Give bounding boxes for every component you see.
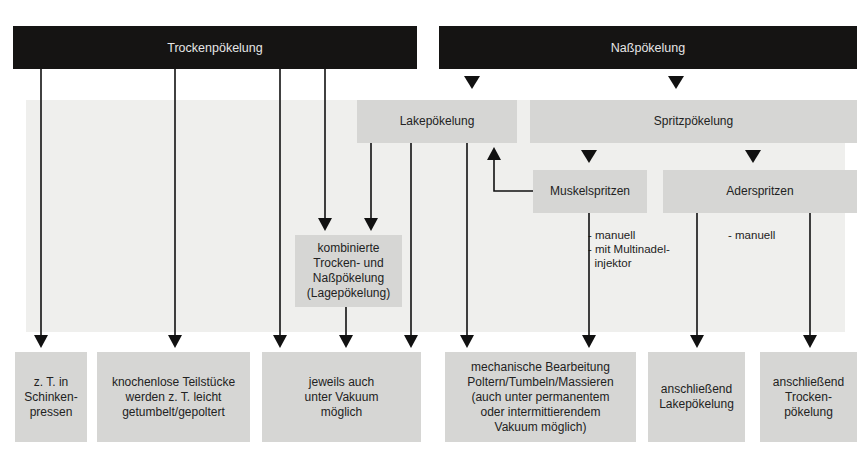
- flow-arrows: [0, 0, 868, 459]
- arrowheads: [34, 76, 817, 348]
